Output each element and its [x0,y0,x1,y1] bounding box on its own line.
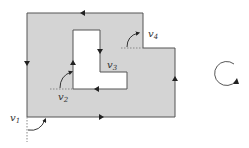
polygon-diagram: v1 v2 v3 v4 [0,0,249,148]
label-v4: v4 [148,28,158,41]
label-v1: v1 [10,112,20,125]
counterclockwise-rotation-icon [215,61,239,85]
inner-direction-arrows [70,49,103,92]
